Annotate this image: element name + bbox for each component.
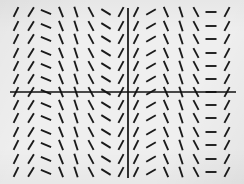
direction-tick xyxy=(118,167,123,177)
direction-tick xyxy=(14,7,19,17)
direction-tick xyxy=(134,48,139,58)
direction-tick xyxy=(146,156,156,162)
direction-tick xyxy=(193,100,198,110)
plot-area xyxy=(0,0,244,184)
direction-tick xyxy=(88,154,93,164)
direction-tick xyxy=(164,48,168,58)
direction-tick xyxy=(164,100,168,110)
direction-tick xyxy=(179,140,182,150)
direction-tick xyxy=(164,127,168,137)
direction-tick xyxy=(88,34,93,44)
direction-tick xyxy=(118,48,123,58)
direction-tick xyxy=(28,140,34,149)
direction-tick xyxy=(41,143,51,147)
direction-tick xyxy=(118,7,123,17)
direction-tick xyxy=(224,100,229,110)
direction-tick xyxy=(41,37,51,41)
direction-tick xyxy=(28,74,34,83)
direction-tick xyxy=(28,34,34,43)
direction-tick xyxy=(59,48,63,58)
direction-tick xyxy=(134,127,139,137)
direction-tick xyxy=(59,61,63,71)
direction-tick xyxy=(59,127,63,137)
direction-tick xyxy=(88,140,93,150)
direction-tick xyxy=(41,130,51,134)
direction-tick xyxy=(59,100,63,110)
direction-tick xyxy=(14,74,19,84)
direction-tick xyxy=(146,9,156,15)
direction-tick xyxy=(28,61,34,70)
direction-tick xyxy=(41,157,51,161)
direction-tick xyxy=(179,100,182,110)
direction-tick xyxy=(118,113,123,123)
direction-tick xyxy=(224,21,229,31)
direction-tick xyxy=(41,24,51,28)
direction-tick xyxy=(118,140,123,150)
direction-tick xyxy=(134,74,139,84)
direction-tick xyxy=(193,167,198,177)
direction-tick xyxy=(28,127,34,136)
direction-tick xyxy=(118,34,123,44)
direction-tick xyxy=(74,100,77,110)
direction-tick xyxy=(134,21,139,31)
direction-tick xyxy=(28,48,34,57)
direction-tick xyxy=(193,154,198,164)
direction-tick xyxy=(41,51,51,55)
direction-tick xyxy=(193,48,198,58)
direction-tick xyxy=(101,102,110,108)
direction-tick xyxy=(14,154,19,164)
direction-tick xyxy=(74,113,77,123)
direction-tick xyxy=(134,140,139,150)
direction-tick xyxy=(193,113,198,123)
direction-tick xyxy=(28,154,34,163)
direction-tick xyxy=(59,74,63,84)
direction-tick xyxy=(59,154,63,164)
direction-tick xyxy=(101,9,110,15)
direction-tick xyxy=(14,34,19,44)
direction-tick xyxy=(59,21,63,31)
direction-tick xyxy=(101,156,110,162)
direction-tick xyxy=(164,7,168,17)
direction-tick xyxy=(146,115,156,121)
direction-tick xyxy=(88,74,93,84)
direction-tick xyxy=(59,113,63,123)
direction-tick xyxy=(146,169,156,175)
direction-tick xyxy=(146,23,156,29)
direction-tick xyxy=(164,74,168,84)
direction-tick xyxy=(74,48,77,58)
direction-tick xyxy=(88,113,93,123)
direction-tick xyxy=(101,115,110,121)
direction-tick xyxy=(74,140,77,150)
direction-tick xyxy=(14,48,19,58)
direction-tick xyxy=(74,167,77,177)
direction-tick xyxy=(193,34,198,44)
direction-tick xyxy=(134,100,139,110)
direction-tick xyxy=(118,127,123,137)
slope-field-figure xyxy=(0,0,244,184)
direction-tick xyxy=(179,74,182,84)
direction-tick xyxy=(59,167,63,177)
direction-tick xyxy=(179,34,182,44)
direction-tick xyxy=(134,61,139,71)
direction-tick xyxy=(28,7,34,16)
direction-tick xyxy=(164,61,168,71)
direction-tick xyxy=(134,34,139,44)
direction-tick xyxy=(118,61,123,71)
direction-tick xyxy=(88,167,93,177)
direction-tick xyxy=(164,140,168,150)
direction-tick xyxy=(224,7,229,17)
direction-tick xyxy=(164,34,168,44)
direction-tick xyxy=(146,50,156,56)
direction-tick xyxy=(224,154,229,164)
direction-tick xyxy=(88,21,93,31)
direction-tick xyxy=(28,113,34,122)
direction-tick xyxy=(118,21,123,31)
direction-tick xyxy=(164,167,168,177)
direction-tick xyxy=(14,21,19,31)
direction-tick xyxy=(41,10,51,14)
direction-tick xyxy=(28,167,34,176)
direction-tick xyxy=(179,167,182,177)
slope-field-canvas xyxy=(0,0,244,184)
direction-tick xyxy=(74,61,77,71)
direction-tick xyxy=(146,129,156,135)
